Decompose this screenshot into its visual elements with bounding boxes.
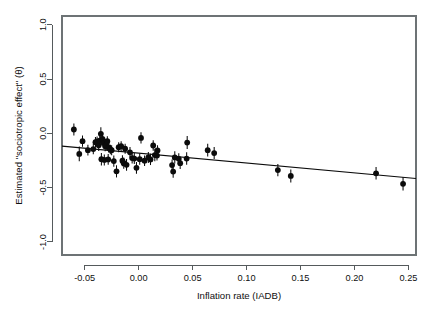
y-axis-tick-label: -0.5 bbox=[38, 180, 48, 196]
data-point bbox=[122, 146, 128, 152]
x-axis-tick-label: 0.20 bbox=[346, 273, 364, 283]
plot-frame-rect bbox=[62, 16, 416, 255]
data-point bbox=[71, 127, 77, 133]
data-point bbox=[131, 156, 137, 162]
data-point bbox=[184, 140, 190, 146]
y-axis-tick-label: -1.0 bbox=[38, 234, 48, 250]
y-axis-tick-label: 1.0 bbox=[38, 18, 48, 31]
data-point bbox=[138, 135, 144, 141]
data-point bbox=[80, 138, 86, 144]
data-point bbox=[85, 147, 91, 153]
y-axis-title: Estimated "sociotropic effect" (θ) bbox=[13, 66, 24, 204]
x-axis-tick-label: 0.25 bbox=[399, 273, 417, 283]
data-point bbox=[400, 181, 406, 187]
data-point bbox=[124, 162, 130, 168]
x-axis-tick-label: 0.05 bbox=[184, 273, 202, 283]
data-point bbox=[170, 169, 176, 175]
data-point bbox=[275, 167, 281, 173]
data-point bbox=[150, 143, 156, 149]
scatter-plot-figure: -0.050.000.050.100.150.200.25 -1.0-0.50.… bbox=[0, 0, 442, 317]
data-point bbox=[148, 157, 154, 163]
data-point bbox=[288, 173, 294, 179]
x-axis-tick-label: 0.10 bbox=[238, 273, 256, 283]
data-point bbox=[76, 151, 82, 157]
plot-frame bbox=[62, 16, 416, 255]
data-point bbox=[134, 165, 140, 171]
data-point bbox=[109, 147, 115, 153]
x-axis: -0.050.000.050.100.150.200.25 bbox=[74, 265, 417, 283]
data-point bbox=[184, 156, 190, 162]
y-axis-tick-label: 0.5 bbox=[38, 73, 48, 86]
x-axis-tick-label: 0.15 bbox=[292, 273, 310, 283]
x-axis-tick-label: 0.00 bbox=[130, 273, 148, 283]
data-point bbox=[105, 157, 111, 163]
data-point bbox=[177, 160, 183, 166]
data-point bbox=[154, 153, 160, 159]
data-point bbox=[211, 150, 217, 156]
plot-canvas: -0.050.000.050.100.150.200.25 -1.0-0.50.… bbox=[0, 0, 442, 317]
data-point bbox=[114, 168, 120, 174]
data-point bbox=[205, 147, 211, 153]
data-point bbox=[373, 170, 379, 176]
y-axis: -1.0-0.50.00.51.0 bbox=[38, 18, 52, 250]
data-points-layer bbox=[71, 124, 406, 191]
y-axis-tick-label: 0.0 bbox=[38, 127, 48, 140]
x-axis-tick-label: -0.05 bbox=[74, 273, 95, 283]
data-point bbox=[169, 162, 175, 168]
data-point bbox=[155, 148, 161, 154]
x-axis-title: Inflation rate (IADB) bbox=[197, 290, 281, 301]
data-point bbox=[111, 158, 117, 164]
